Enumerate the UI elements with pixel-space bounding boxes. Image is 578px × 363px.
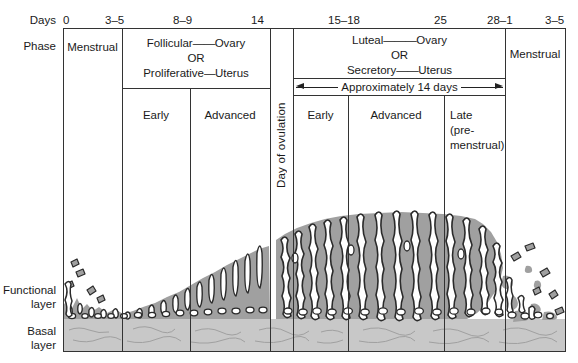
grid-vline-day25 xyxy=(444,95,445,352)
day-of-ovulation-label: Day of ovulation xyxy=(275,98,287,188)
row-label-functional-layer: Functional layer xyxy=(0,284,56,311)
phase-follicular-proliferative: Follicular——Ovary OR Proliferative—Uteru… xyxy=(122,36,270,81)
grid-vline-day0 xyxy=(63,28,64,352)
phase-line-or-2: OR xyxy=(293,48,506,63)
arrow-left-head xyxy=(296,87,338,88)
approximately-14-days-row: Approximately 14 days xyxy=(296,79,503,95)
phase-menstrual-left: Menstrual xyxy=(63,40,122,55)
phase-dash-3: ——— xyxy=(383,34,416,46)
grid-vline-day15-18 xyxy=(348,95,349,352)
grid-vline-day3-5-end xyxy=(565,28,566,352)
phase-text-ovary-2: Ovary xyxy=(416,34,447,46)
day-tick-8-9: 8–9 xyxy=(173,14,192,26)
grid-hline-arrow-bottom xyxy=(293,95,506,96)
phase-text-secretory: Secretory xyxy=(347,64,396,76)
day-tick-14: 14 xyxy=(251,14,264,26)
day-tick-28-1: 28–1 xyxy=(487,14,513,26)
grid-vline-day14 xyxy=(270,28,271,352)
phase-text-proliferative: Proliferative xyxy=(143,67,204,79)
phase-dash-4: —— xyxy=(396,64,418,76)
subphase-early-secretory: Early xyxy=(293,108,348,123)
grid-hline-phase-bottom-left xyxy=(122,88,270,89)
endometrium-illustration xyxy=(63,180,565,352)
phase-dash-2: — xyxy=(204,67,215,79)
subphase-advanced-secretory: Advanced xyxy=(348,108,444,123)
phase-text-ovary: Ovary xyxy=(215,37,246,49)
grid-hline-top xyxy=(63,28,566,29)
phase-line-luteal-ovary: Luteal———Ovary xyxy=(293,33,506,48)
row-label-basal-layer: Basal layer xyxy=(0,325,56,352)
row-label-phase: Phase xyxy=(0,40,56,54)
phase-text-luteal: Luteal xyxy=(352,34,383,46)
subphase-advanced-proliferative: Advanced xyxy=(190,108,270,123)
phase-luteal-secretory: Luteal———Ovary OR Secretory——Uterus xyxy=(293,33,506,78)
phase-line-proliferative-uterus: Proliferative—Uterus xyxy=(122,66,270,81)
subphase-early-proliferative: Early xyxy=(122,108,190,123)
subphase-late-premenstrual: Late (pre- menstrual) xyxy=(450,108,506,153)
day-tick-3-5: 3–5 xyxy=(105,14,124,26)
phase-text-uterus: Uterus xyxy=(215,67,249,79)
day-tick-0: 0 xyxy=(63,14,69,26)
phase-text-follicular: Follicular xyxy=(147,37,193,49)
approximately-14-days-label: Approximately 14 days xyxy=(338,81,460,93)
phase-line-or-1: OR xyxy=(122,51,270,66)
grid-vline-day8-9 xyxy=(190,88,191,352)
phase-line-follicular-ovary: Follicular——Ovary xyxy=(122,36,270,51)
menstrual-cycle-diagram: Days Phase Functional layer Basal layer … xyxy=(0,0,578,363)
day-tick-25: 25 xyxy=(434,14,447,26)
arrow-right-head xyxy=(461,87,503,88)
phase-line-secretory-uterus: Secretory——Uterus xyxy=(293,63,506,78)
grid-hline-bottom xyxy=(63,351,566,352)
phase-dash-1: —— xyxy=(193,37,215,49)
phase-menstrual-right: Menstrual xyxy=(505,47,565,62)
row-label-days: Days xyxy=(0,14,56,28)
day-tick-15-18: 15–18 xyxy=(328,14,360,26)
phase-text-uterus-2: Uterus xyxy=(418,64,452,76)
day-tick-3-5-end: 3–5 xyxy=(545,14,564,26)
